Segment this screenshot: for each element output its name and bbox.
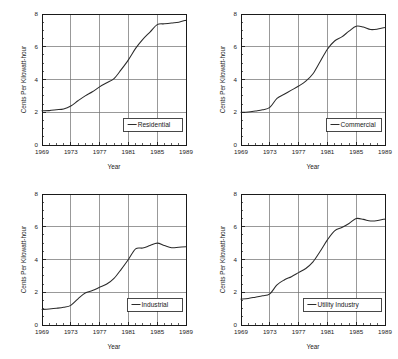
xtick-label-1977: 1977 [93,328,107,335]
xtick-label-1969: 1969 [234,148,248,155]
xtick-label-1973: 1973 [263,148,277,155]
panel-utility-industry: 02468196919731977198119851989 Utility In… [199,180,398,359]
xtick-label-1989: 1989 [179,148,193,155]
xtick-label-1985: 1985 [150,328,164,335]
xtick-label-1969: 1969 [35,328,49,335]
legend-label-residential: Residential [138,121,171,128]
xtick-label-1989: 1989 [179,328,193,335]
xaxis-title-utility-industry: Year [307,343,321,350]
ytick-label-8: 8 [35,10,39,17]
xtick-label-1981: 1981 [321,148,335,155]
ytick-label-6: 6 [35,223,39,230]
yaxis-title-commercial: Cents Per Kilowatt-hour [219,45,226,113]
ytick-label-6: 6 [234,223,238,230]
panel-industrial-svg: 02468196919731977198119851989 Industrial… [0,180,199,359]
yaxis-title-industrial: Cents Per Kilowatt-hour [20,225,27,293]
ytick-label-2: 2 [234,108,238,115]
legend-utility-industry: Utility Industry [303,298,381,311]
xtick-label-1985: 1985 [150,148,164,155]
panel-residential: 02468196919731977198119851989 Residentia… [0,0,199,179]
ytick-label-6: 6 [234,43,238,50]
ytick-label-8: 8 [234,10,238,17]
ytick-label-4: 4 [35,256,39,263]
xaxis-title-commercial: Year [307,163,321,170]
ytick-label-6: 6 [35,43,39,50]
xtick-label-1973: 1973 [64,328,78,335]
xtick-label-1977: 1977 [93,148,107,155]
xtick-label-1985: 1985 [349,328,363,335]
xtick-label-1973: 1973 [263,328,277,335]
yaxis-title-utility-industry: Cents Per Kilowatt-hour [219,225,226,293]
ytick-label-2: 2 [35,288,39,295]
legend-label-commercial: Commercial [341,121,377,128]
xaxis-title-residential: Year [108,163,122,170]
ytick-label-2: 2 [35,108,39,115]
ytick-label-8: 8 [35,190,39,197]
xtick-label-1977: 1977 [292,148,306,155]
legend-label-industrial: Industrial [142,301,169,308]
panel-residential-svg: 02468196919731977198119851989 Residentia… [0,0,199,179]
legend-label-utility-industry: Utility Industry [317,301,359,309]
xtick-label-1981: 1981 [321,328,335,335]
xtick-label-1969: 1969 [234,328,248,335]
xtick-label-1973: 1973 [64,148,78,155]
xtick-label-1981: 1981 [122,328,136,335]
legend-commercial: Commercial [327,118,382,131]
xtick-label-1989: 1989 [378,328,392,335]
xtick-label-1977: 1977 [292,328,306,335]
panel-industrial: 02468196919731977198119851989 Industrial… [0,180,199,359]
series-path-commercial [241,26,385,112]
panel-commercial: 02468196919731977198119851989 Commercial… [199,0,398,179]
series-line-residential [42,20,186,111]
tick-labels-industrial: 02468196919731977198119851989 [35,190,194,335]
xtick-label-1989: 1989 [378,148,392,155]
ytick-label-4: 4 [234,256,238,263]
ytick-label-8: 8 [234,190,238,197]
chart-figure: 02468196919731977198119851989 Residentia… [0,0,398,359]
tick-labels-residential: 02468196919731977198119851989 [35,10,194,155]
panel-utility-industry-svg: 02468196919731977198119851989 Utility In… [199,180,398,359]
series-path-residential [42,20,186,111]
legend-industrial: Industrial [128,298,183,311]
tick-labels-commercial: 02468196919731977198119851989 [234,10,393,155]
legend-residential: Residential [124,118,182,131]
ytick-label-4: 4 [35,76,39,83]
xtick-label-1969: 1969 [35,148,49,155]
ytick-label-2: 2 [234,288,238,295]
xtick-label-1981: 1981 [122,148,136,155]
yaxis-title-residential: Cents Per Kilowatt-hour [20,45,27,113]
series-path-utility-industry [241,218,385,299]
series-line-commercial [241,26,385,112]
ytick-label-4: 4 [234,76,238,83]
series-line-utility-industry [241,218,385,299]
xtick-label-1985: 1985 [349,148,363,155]
xaxis-title-industrial: Year [108,343,122,350]
panel-commercial-svg: 02468196919731977198119851989 Commercial… [199,0,398,179]
